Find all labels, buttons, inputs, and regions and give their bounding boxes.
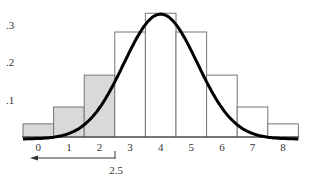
x-tick-label: 2: [97, 141, 103, 153]
x-tick-label: 7: [250, 141, 256, 153]
cutoff-label: 2.5: [109, 164, 123, 176]
x-tick-label: 6: [219, 141, 225, 153]
x-tick-label: 1: [66, 141, 72, 153]
bars: [23, 13, 298, 137]
y-tick-label: .1: [6, 94, 14, 106]
y-axis-labels: .1.2.3: [6, 19, 15, 106]
y-tick-label: .2: [6, 56, 14, 68]
histogram-chart: .1.2.3 012345678 2.5: [0, 0, 311, 182]
x-tick-label: 3: [127, 141, 133, 153]
x-axis-labels: 012345678: [36, 141, 287, 153]
bar-4: [145, 13, 176, 137]
arrow-left-icon: [30, 156, 38, 161]
x-tick-label: 4: [158, 141, 164, 153]
cutoff-annotation: 2.5: [30, 151, 123, 176]
x-tick-label: 8: [280, 141, 286, 153]
bar-0: [23, 124, 54, 137]
bar-8: [268, 124, 299, 137]
x-tick-label: 5: [189, 141, 195, 153]
y-tick-label: .3: [6, 19, 15, 31]
x-tick-label: 0: [36, 141, 42, 153]
